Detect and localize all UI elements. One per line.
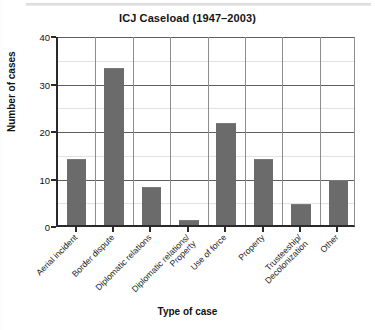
bar-chart-figure: ICJ Caseload (1947–2003) Number of cases… bbox=[0, 0, 375, 330]
bar bbox=[142, 187, 161, 225]
y-axis-tick-label: 10 bbox=[24, 174, 50, 185]
bar bbox=[329, 180, 348, 225]
y-axis-tick-label: 0 bbox=[24, 222, 50, 233]
x-axis-tick-mark bbox=[336, 227, 338, 232]
x-axis-tick-mark bbox=[262, 227, 264, 232]
x-axis-tick-mark bbox=[149, 227, 151, 232]
bar bbox=[67, 159, 86, 226]
x-axis-tick-mark bbox=[187, 227, 189, 232]
x-axis-tick-mark bbox=[112, 227, 114, 232]
y-axis-tick-label: 40 bbox=[24, 32, 50, 43]
bar-series bbox=[58, 37, 354, 225]
bar bbox=[216, 123, 235, 225]
chart-title: ICJ Caseload (1947–2003) bbox=[0, 12, 375, 24]
x-axis-tick-mark bbox=[75, 227, 77, 232]
x-axis-tick-mark bbox=[224, 227, 226, 232]
plot-area bbox=[56, 37, 355, 227]
x-axis-tick-mark bbox=[299, 227, 301, 232]
y-axis-tick-label: 20 bbox=[24, 127, 50, 138]
bar bbox=[254, 159, 273, 226]
bar bbox=[104, 68, 123, 225]
x-axis-title: Type of case bbox=[0, 306, 375, 317]
bar bbox=[179, 220, 198, 225]
bar bbox=[291, 204, 310, 225]
y-axis-title: Number of cases bbox=[6, 51, 17, 132]
y-axis-tick-label: 30 bbox=[24, 79, 50, 90]
